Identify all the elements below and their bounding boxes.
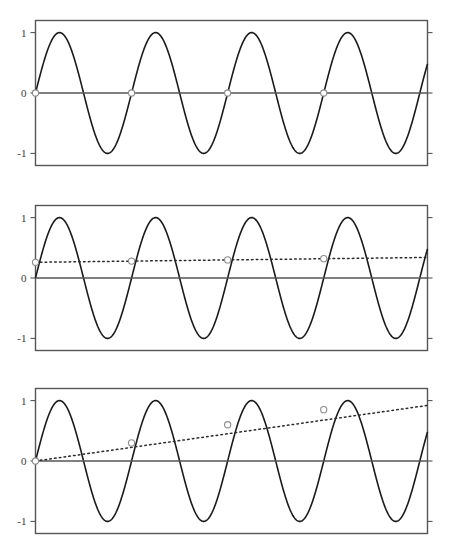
y-tick-label: -1: [17, 147, 26, 159]
plot-panel-3: 10-1: [0, 368, 454, 554]
data-point-marker: [321, 256, 327, 262]
data-point-marker: [225, 90, 231, 96]
y-tick-label: 1: [21, 27, 27, 39]
data-point-marker: [128, 90, 134, 96]
y-tick-label: 1: [21, 395, 27, 407]
data-point-marker: [128, 440, 134, 446]
y-tick-label: 0: [21, 455, 27, 467]
data-point-marker: [32, 259, 38, 265]
y-tick-label: -1: [17, 515, 26, 527]
data-point-marker: [32, 90, 38, 96]
data-point-marker: [128, 258, 134, 264]
figure-container: 10-1 10-1 10-1: [0, 0, 454, 558]
trend-line-fast-trend: [36, 405, 428, 461]
y-tick-label: -1: [17, 332, 26, 344]
y-tick-label: 0: [21, 272, 27, 284]
plot-panel-2: 10-1: [0, 185, 454, 371]
plot-panel-1: 10-1: [0, 0, 454, 186]
data-point-marker: [225, 257, 231, 263]
y-tick-label: 0: [21, 87, 27, 99]
data-point-marker: [321, 407, 327, 413]
data-point-marker: [32, 458, 38, 464]
y-tick-label: 1: [21, 212, 27, 224]
data-point-marker: [225, 422, 231, 428]
data-point-marker: [321, 90, 327, 96]
